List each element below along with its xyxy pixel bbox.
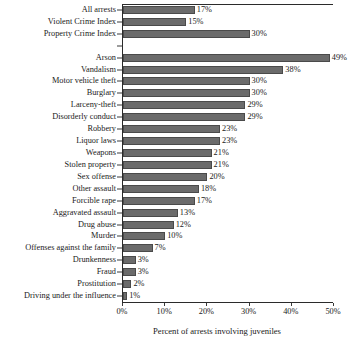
y-axis-tick xyxy=(117,248,122,249)
bar xyxy=(123,232,165,240)
category-label: Murder xyxy=(91,232,116,240)
bar xyxy=(123,77,250,85)
bar xyxy=(123,268,136,276)
category-label: Robbery xyxy=(87,125,116,133)
category-label: Burglary xyxy=(87,89,116,97)
y-axis-tick xyxy=(117,69,122,70)
bar-row: Robbery23% xyxy=(0,123,350,135)
bar xyxy=(123,209,178,217)
x-axis-tick-label: 50% xyxy=(325,308,340,316)
bar-row: Motor vehicle theft30% xyxy=(0,76,350,88)
x-axis-line xyxy=(122,302,333,303)
bar-row: Violent Crime Index15% xyxy=(0,16,350,28)
bar xyxy=(123,101,245,109)
y-axis-tick xyxy=(117,21,122,22)
bar-value-label: 13% xyxy=(180,208,195,216)
x-axis-title-text: Percent of arrests involving juveniles xyxy=(153,326,281,336)
bar-row: Fraud3% xyxy=(0,266,350,278)
bar-value-label: 3% xyxy=(138,256,149,264)
bar xyxy=(123,125,220,133)
bar xyxy=(123,161,212,169)
bar-value-label: 17% xyxy=(197,6,212,14)
x-axis-tick xyxy=(333,303,334,306)
y-axis-tick xyxy=(117,224,122,225)
y-axis-tick xyxy=(117,105,122,106)
y-axis-tick xyxy=(117,212,122,213)
bar xyxy=(123,149,212,157)
y-axis-tick xyxy=(117,296,122,297)
category-label: Offenses against the family xyxy=(25,244,116,252)
category-label: Prostitution xyxy=(77,280,116,288)
bar-value-label: 23% xyxy=(222,125,237,133)
category-label: Motor vehicle theft xyxy=(52,77,116,85)
category-label: Stolen property xyxy=(65,161,116,169)
x-axis-tick xyxy=(291,303,292,306)
category-label: Driving under the influence xyxy=(24,292,116,300)
bar-row: Drug abuse12% xyxy=(0,219,350,231)
category-label: Liquor laws xyxy=(76,137,116,145)
y-axis-tick xyxy=(117,236,122,237)
bar xyxy=(123,6,195,14)
x-axis-tick-label: 30% xyxy=(241,308,256,316)
category-label: Drunkenness xyxy=(73,256,116,264)
bar xyxy=(123,66,283,74)
bar xyxy=(123,54,330,62)
bar-row: Offenses against the family7% xyxy=(0,242,350,254)
bar-row: Vandalism38% xyxy=(0,64,350,76)
bar-row: Aggravated assault13% xyxy=(0,207,350,219)
category-label: Fraud xyxy=(97,268,116,276)
y-axis-tick xyxy=(117,141,122,142)
category-label: Violent Crime Index xyxy=(48,18,116,26)
y-axis-tick xyxy=(117,45,122,46)
bar-value-label: 18% xyxy=(201,185,216,193)
category-label: Drug abuse xyxy=(78,220,116,228)
category-label: Sex offense xyxy=(77,173,116,181)
bar-row: Property Crime Index30% xyxy=(0,28,350,40)
bar xyxy=(123,89,250,97)
bar-value-label: 23% xyxy=(222,137,237,145)
x-axis-tick-label: 20% xyxy=(199,308,214,316)
bar-row: Sex offense20% xyxy=(0,171,350,183)
y-axis-tick xyxy=(117,164,122,165)
bar-chart: All arrests17%Violent Crime Index15%Prop… xyxy=(0,0,350,347)
bar xyxy=(123,18,186,26)
bar-value-label: 3% xyxy=(138,268,149,276)
y-axis-tick xyxy=(117,81,122,82)
x-axis-tick xyxy=(122,303,123,306)
bar-row: Weapons21% xyxy=(0,147,350,159)
x-axis-tick xyxy=(164,303,165,306)
bar-row: Larceny-theft29% xyxy=(0,99,350,111)
bar-row: Drunkenness3% xyxy=(0,254,350,266)
y-axis-tick xyxy=(117,200,122,201)
bar-value-label: 7% xyxy=(155,244,166,252)
bar-value-label: 49% xyxy=(332,53,347,61)
bar-row: Murder10% xyxy=(0,230,350,242)
bar-value-label: 15% xyxy=(188,18,203,26)
x-axis-title: Percent of arrests involving juveniles xyxy=(0,327,350,336)
bar-row: Liquor laws23% xyxy=(0,135,350,147)
category-label: Property Crime Index xyxy=(44,30,116,38)
bar-row: Arson49% xyxy=(0,52,350,64)
bar-value-label: 12% xyxy=(176,220,191,228)
bar xyxy=(123,185,199,193)
bar-value-label: 2% xyxy=(133,280,144,288)
bar-row: Other assault18% xyxy=(0,183,350,195)
bar xyxy=(123,221,174,229)
bar xyxy=(123,197,195,205)
bar-value-label: 38% xyxy=(285,65,300,73)
y-axis-tick xyxy=(117,57,122,58)
y-axis-tick xyxy=(117,188,122,189)
bar-row: Disorderly conduct29% xyxy=(0,111,350,123)
x-axis-tick-label: 10% xyxy=(157,308,172,316)
y-axis-tick xyxy=(117,272,122,273)
bar-row: All arrests17% xyxy=(0,4,350,16)
y-axis-tick xyxy=(117,93,122,94)
y-axis-tick xyxy=(117,117,122,118)
category-label: Vandalism xyxy=(81,65,116,73)
category-label: Aggravated assault xyxy=(53,208,116,216)
bar-value-label: 17% xyxy=(197,197,212,205)
bar-row: Prostitution2% xyxy=(0,278,350,290)
y-axis-tick xyxy=(117,176,122,177)
bar xyxy=(123,113,245,121)
bar xyxy=(123,137,220,145)
